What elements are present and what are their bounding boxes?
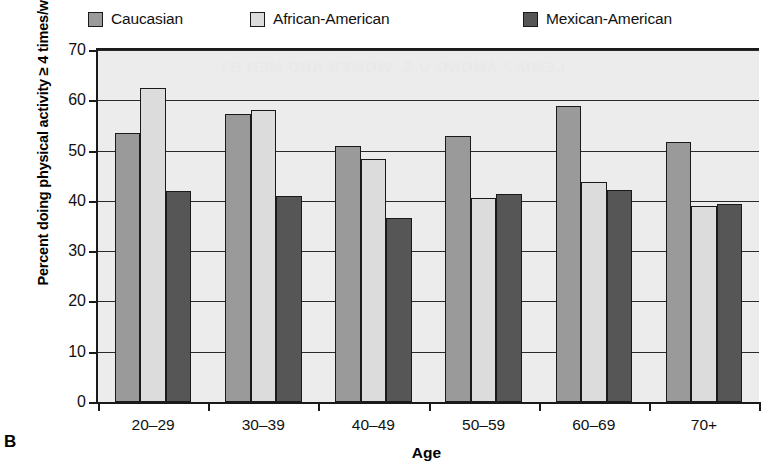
x-axis-tick-label: 40–49 [352,416,395,434]
panel-label: B [4,432,16,452]
y-axis-tick-label: 40 [68,192,86,210]
figure-panel-b: CaucasianAfrican-AmericanMexican-America… [0,0,771,472]
bar [225,114,251,402]
bar [361,159,387,402]
legend-swatch-icon [523,12,538,27]
y-axis-tick-label: 0 [77,393,86,411]
legend-label: Mexican-American [546,11,672,27]
y-axis-tick-label: 30 [68,242,86,260]
bar [115,133,141,402]
gridline [98,251,759,252]
bar [445,136,471,403]
gridline [98,100,759,101]
plot-inner: LEMIA,² AMONG U.S. WOMEN AND MEN BY01020… [98,50,759,402]
legend-item-0: Caucasian [88,8,183,30]
x-axis-tick-label: 30–39 [242,416,285,434]
x-axis-line [96,402,759,404]
y-axis-tick [89,251,98,253]
gridline [98,352,759,353]
y-axis-tick-label: 70 [68,41,86,59]
gridline [98,151,759,152]
y-axis-tick-label: 50 [68,142,86,160]
bar [166,191,192,402]
x-axis-tick-label: 60–69 [572,416,615,434]
legend-item-1: African-American [250,8,389,30]
bar [496,194,522,402]
bar [556,106,582,402]
legend-item-2: Mexican-American [523,8,672,30]
x-axis-tick-label: 50–59 [462,416,505,434]
chart-legend: CaucasianAfrican-AmericanMexican-America… [0,6,771,32]
gridline [98,301,759,302]
bar [251,110,277,402]
plot-area: LEMIA,² AMONG U.S. WOMEN AND MEN BY01020… [96,48,759,402]
legend-swatch-icon [88,12,103,27]
page-bleed-text: LEMIA,² AMONG U.S. WOMEN AND MEN BY [218,58,565,75]
bar [276,196,302,402]
bar [335,146,361,402]
y-axis-tick [89,50,98,52]
x-axis-title: Age [96,444,757,462]
bar [607,190,633,402]
y-axis-tick-label: 20 [68,292,86,310]
y-axis-tick-label: 60 [68,91,86,109]
y-axis-tick-label: 10 [68,343,86,361]
legend-label: Caucasian [111,11,183,27]
bar [471,198,497,402]
y-axis-tick [89,100,98,102]
x-axis-tick-label: 20–29 [132,416,175,434]
x-axis-tick [759,402,761,411]
legend-label: African-American [273,11,389,27]
bar [581,182,607,402]
bar [717,204,743,402]
y-axis-title: Percent doing physical activity ≥ 4 time… [34,0,52,296]
bar [691,206,717,402]
y-axis-tick [89,352,98,354]
legend-swatch-icon [250,12,265,27]
y-axis-tick [89,301,98,303]
bar [666,142,692,402]
bar [140,88,166,402]
gridline [98,50,759,51]
y-axis-tick [89,151,98,153]
y-axis-tick [89,201,98,203]
gridline [98,201,759,202]
bar [386,218,412,402]
x-axis-tick-label: 70+ [691,416,717,434]
